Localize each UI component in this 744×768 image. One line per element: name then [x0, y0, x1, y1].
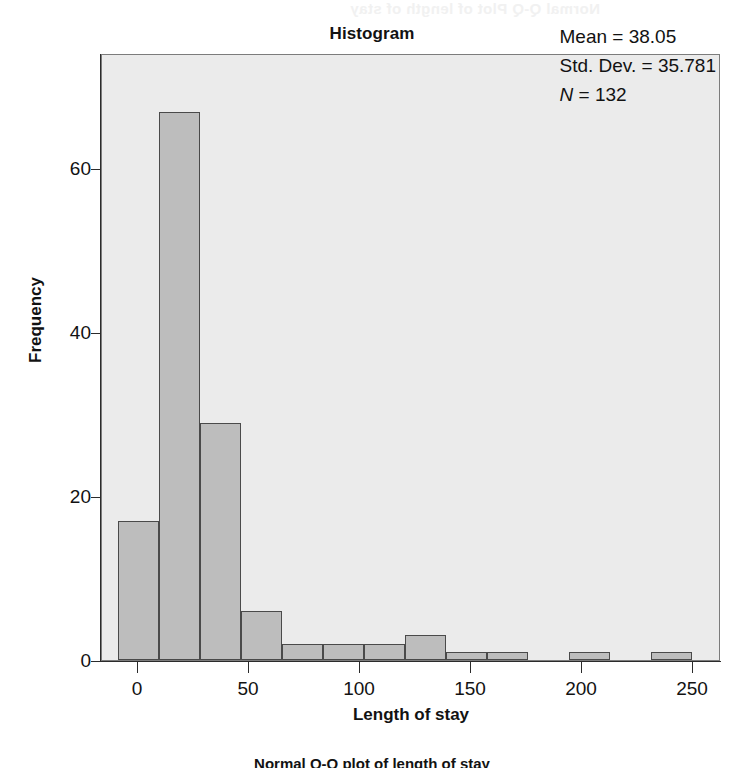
statistics-annotation: Mean = 38.05 Std. Dev. = 35.781 N = 132 [560, 22, 717, 109]
histogram-bar [118, 521, 159, 660]
y-tick-label: 60 [27, 159, 91, 178]
x-tick-mark-200 [581, 662, 582, 673]
y-axis-title: Frequency [26, 180, 46, 460]
stat-n-label: N = 132 [560, 80, 717, 109]
histogram-bar [241, 611, 282, 660]
stat-n-symbol: N [560, 84, 574, 105]
x-axis-title: Length of stay [101, 705, 721, 725]
x-tick-mark-100 [359, 662, 360, 673]
histogram-bar [405, 635, 446, 660]
histogram-bar [446, 652, 487, 660]
y-tick-label: 20 [27, 487, 91, 506]
histogram-bar [282, 644, 323, 660]
x-tick-mark-250 [692, 662, 693, 673]
x-axis-line [101, 661, 721, 662]
x-tick-label-50: 50 [208, 678, 288, 700]
stat-std-dev-label: Std. Dev. = 35.781 [560, 51, 717, 80]
histogram-bar [569, 652, 610, 660]
x-tick-mark-150 [470, 662, 471, 673]
histogram-bar [159, 112, 200, 660]
x-tick-label-200: 200 [541, 678, 621, 700]
x-tick-label-0: 0 [97, 678, 177, 700]
x-tick-mark-0 [137, 662, 138, 673]
histogram-bar [323, 644, 364, 660]
x-tick-label-250: 250 [652, 678, 732, 700]
x-tick-mark-50 [248, 662, 249, 673]
y-tick-label: 0 [27, 651, 91, 670]
histogram-bar [651, 652, 692, 660]
bars-container [102, 55, 719, 660]
x-tick-label-100: 100 [319, 678, 399, 700]
histogram-bar [364, 644, 405, 660]
histogram-bar [487, 652, 528, 660]
histogram-bar [200, 423, 241, 660]
x-tick-label-150: 150 [430, 678, 510, 700]
figure-caption: Normal Q-Q plot of length of stay [0, 755, 744, 768]
stat-mean-label: Mean = 38.05 [560, 22, 717, 51]
page-bleed-through-text: Normal Q-Q Plot of length of stay [130, 0, 600, 18]
plot-area [101, 54, 720, 661]
stat-n-value: = 132 [573, 84, 626, 105]
y-tick-label: 40 [27, 323, 91, 342]
